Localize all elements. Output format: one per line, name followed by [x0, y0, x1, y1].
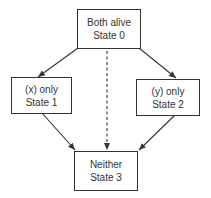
edge-state1-to-state3 [42, 113, 75, 150]
node-state-3-title: Neither [90, 158, 122, 171]
node-state-1: (x) only State 1 [11, 77, 72, 114]
node-state-3: Neither State 3 [74, 151, 138, 191]
node-state-0-label: State 0 [93, 29, 125, 42]
node-state-2-label: State 2 [152, 98, 184, 111]
node-state-1-title: (x) only [25, 83, 58, 96]
edge-state0-to-state1 [38, 48, 78, 77]
node-state-0: Both alive State 0 [77, 9, 141, 49]
edge-state0-to-state2 [139, 48, 176, 78]
node-state-2-title: (y) only [152, 85, 185, 98]
node-state-0-title: Both alive [87, 16, 131, 29]
node-state-1-label: State 1 [26, 96, 58, 109]
node-state-3-label: State 3 [90, 171, 122, 184]
edge-state2-to-state3 [139, 115, 175, 150]
node-state-2: (y) only State 2 [136, 79, 200, 116]
